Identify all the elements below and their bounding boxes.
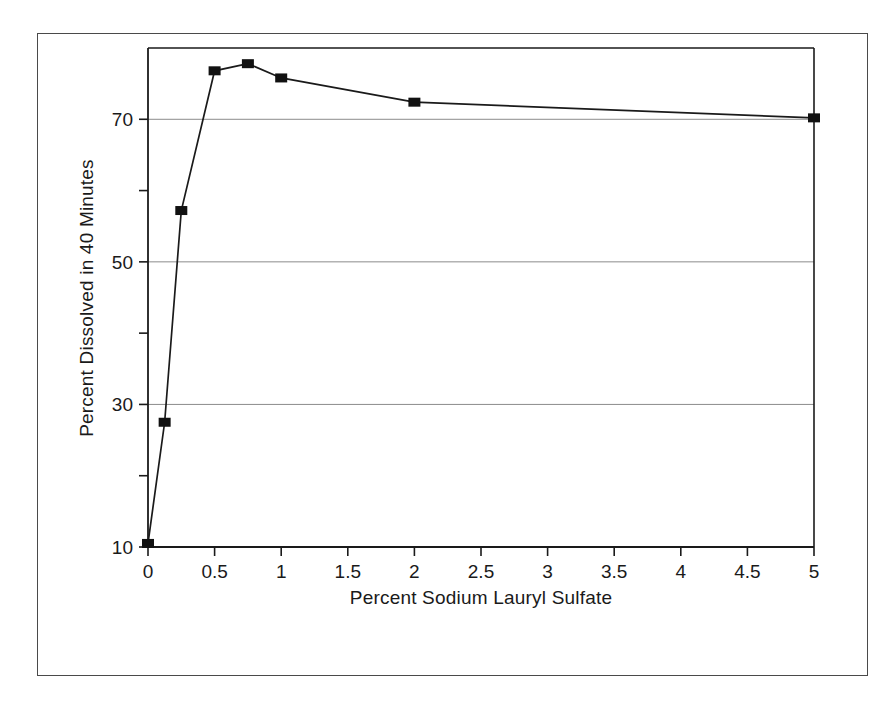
y-tick-label: 30 xyxy=(112,394,133,415)
data-point-marker xyxy=(275,73,287,82)
data-series xyxy=(142,59,820,548)
x-tick-label: 1.5 xyxy=(335,561,361,582)
line-chart: 10305070 00.511.522.533.544.55 Percent S… xyxy=(0,0,893,704)
data-point-marker xyxy=(209,66,221,75)
y-axis-tick-labels: 10305070 xyxy=(112,109,133,558)
x-tick-label: 5 xyxy=(809,561,820,582)
figure-root: 10305070 00.511.522.533.544.55 Percent S… xyxy=(0,0,893,704)
plot-frame xyxy=(148,48,814,547)
data-point-marker xyxy=(159,418,171,427)
x-tick-label: 2.5 xyxy=(468,561,494,582)
series-line xyxy=(148,64,814,544)
x-tick-label: 4.5 xyxy=(734,561,760,582)
x-axis-ticks xyxy=(148,547,814,556)
y-axis-ticks xyxy=(139,119,148,547)
x-tick-label: 1 xyxy=(276,561,287,582)
data-point-marker xyxy=(242,59,254,68)
data-point-marker xyxy=(808,113,820,122)
x-tick-label: 3 xyxy=(542,561,553,582)
x-axis-tick-labels: 00.511.522.533.544.55 xyxy=(143,561,820,582)
y-gridlines xyxy=(148,119,814,404)
data-point-marker xyxy=(175,206,187,215)
data-point-marker xyxy=(142,539,154,548)
series-markers xyxy=(142,59,820,548)
x-tick-label: 0 xyxy=(143,561,154,582)
y-tick-label: 10 xyxy=(112,537,133,558)
data-point-marker xyxy=(408,98,420,107)
x-tick-label: 3.5 xyxy=(601,561,627,582)
y-tick-label: 70 xyxy=(112,109,133,130)
x-axis-title: Percent Sodium Lauryl Sulfate xyxy=(350,587,612,608)
x-tick-label: 0.5 xyxy=(201,561,227,582)
x-tick-label: 4 xyxy=(676,561,687,582)
y-axis-title: Percent Dissolved in 40 Minutes xyxy=(76,159,97,437)
x-tick-label: 2 xyxy=(409,561,420,582)
y-tick-label: 50 xyxy=(112,252,133,273)
